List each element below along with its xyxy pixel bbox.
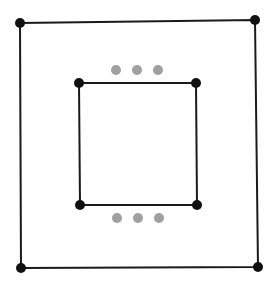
ellipsis-dot: [153, 65, 163, 75]
ellipsis-dot: [132, 65, 142, 75]
ellipsis-dot: [112, 213, 122, 223]
inner-square: [79, 83, 197, 205]
inner-square-vertices: [74, 78, 202, 210]
ellipsis-dot: [154, 213, 164, 223]
outer-square: [20, 20, 258, 268]
vertex-dot: [192, 200, 202, 210]
vertex-dot: [250, 15, 260, 25]
ellipsis-top: [111, 65, 163, 75]
outer-square-vertices: [15, 15, 263, 273]
vertex-dot: [15, 18, 25, 28]
ellipsis-dot: [111, 65, 121, 75]
ellipsis-dot: [133, 213, 143, 223]
vertex-dot: [16, 263, 26, 273]
ellipsis-bottom: [112, 213, 164, 223]
vertex-dot: [253, 262, 263, 272]
vertex-dot: [191, 78, 201, 88]
vertex-dot: [74, 78, 84, 88]
vertex-dot: [75, 200, 85, 210]
nested-squares-diagram: [0, 0, 276, 288]
